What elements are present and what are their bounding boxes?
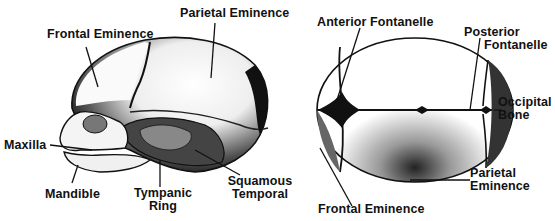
label-posterior-fontanelle: Posterior Fontanelle	[464, 26, 548, 52]
superior-skull	[317, 38, 513, 182]
label-tympanic-ring: Tympanic Ring	[133, 187, 193, 213]
label-parietal-eminence-top-line2: Eminence	[470, 180, 530, 193]
label-mandible: Mandible	[45, 188, 100, 201]
label-squamous-temporal-line2: Temporal	[225, 188, 295, 201]
label-parietal-eminence: Parietal Eminence	[180, 7, 289, 20]
skull-diagram: Frontal Eminence Parietal Eminence Maxil…	[0, 0, 555, 221]
label-frontal-eminence-top: Frontal Eminence	[318, 203, 424, 216]
leader-mandible	[72, 165, 78, 183]
label-anterior-fontanelle: Anterior Fontanelle	[317, 16, 434, 29]
label-occipital-bone-line2: Bone	[498, 109, 552, 122]
label-posterior-fontanelle-line2: Fontanelle	[464, 39, 548, 52]
label-tympanic-ring-line2: Ring	[133, 200, 193, 213]
label-parietal-eminence-top: Parietal Eminence	[470, 167, 530, 193]
label-maxilla: Maxilla	[4, 139, 46, 152]
label-occipital-bone: Occipital Bone	[498, 96, 552, 122]
label-squamous-temporal: Squamous Temporal	[225, 175, 295, 201]
label-frontal-eminence: Frontal Eminence	[47, 28, 153, 41]
lateral-skull	[60, 37, 268, 172]
